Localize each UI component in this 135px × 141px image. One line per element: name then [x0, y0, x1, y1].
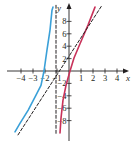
x-tick-label: 4	[115, 73, 120, 83]
y-axis-arrow-icon	[67, 3, 72, 9]
y-tick-label: 2	[62, 54, 66, 64]
x-tick-label: 1	[79, 73, 83, 83]
y-axis-label: y	[56, 3, 61, 13]
x-tick-label: −4	[16, 73, 26, 83]
y-tick-label: 8	[62, 16, 66, 26]
y-tick-label: 6	[62, 29, 66, 39]
x-axis-label: x	[125, 73, 130, 83]
graph: −4−3−2−11234 8642−2−4−6−8 x y	[0, 0, 135, 141]
x-tick-label: 3	[103, 73, 107, 83]
x-tick-label: −3	[28, 73, 37, 83]
y-tick-label: −8	[57, 116, 66, 126]
x-tick-label: 2	[91, 73, 95, 83]
